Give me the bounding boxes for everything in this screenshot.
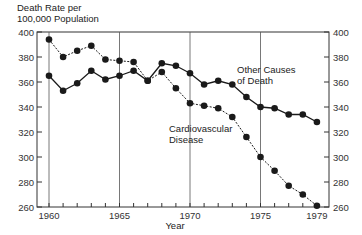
y-tick-label-left: 380: [18, 52, 34, 63]
y-tick-label-right: 380: [333, 52, 349, 63]
x-tick-label: 1965: [109, 210, 130, 221]
data-point-marker: [187, 100, 194, 107]
data-point-marker: [285, 182, 292, 189]
data-point-marker: [314, 202, 321, 209]
plot-border: [37, 32, 329, 207]
data-point-marker: [243, 94, 250, 101]
data-point-marker: [74, 80, 81, 87]
y-tick-label-right: 280: [333, 177, 349, 188]
line-chart: 260280300320340360380400 260280300320340…: [0, 0, 362, 235]
data-point-marker: [173, 85, 180, 92]
data-point-marker: [144, 77, 151, 84]
y-tick-label-right: 260: [333, 202, 349, 213]
data-point-marker: [271, 167, 278, 174]
data-point-marker: [173, 62, 180, 69]
y-tick-label-left: 340: [18, 102, 34, 113]
y-tick-label-left: 400: [18, 27, 34, 38]
data-point-marker: [130, 59, 137, 66]
data-point-marker: [116, 57, 123, 64]
data-point-marker: [159, 60, 166, 67]
y-tick-label-right: 360: [333, 77, 349, 88]
x-tick-label: 1975: [250, 210, 271, 221]
plot-frame: [37, 32, 329, 207]
data-point-marker: [229, 114, 236, 121]
other-causes-label-line-2: of Death: [237, 75, 273, 86]
y-tick-label-right: 400: [333, 27, 349, 38]
data-point-marker: [201, 102, 208, 109]
y-tick-label-right: 300: [333, 152, 349, 163]
data-point-marker: [102, 56, 109, 63]
x-axis: 19601965197019751979: [38, 203, 327, 221]
data-point-marker: [229, 81, 236, 88]
data-point-marker: [60, 87, 67, 94]
y-tick-label-right: 320: [333, 127, 349, 138]
y-tick-label-right: 340: [333, 102, 349, 113]
y-axis-right: 260280300320340360380400: [324, 27, 349, 213]
data-point-marker: [285, 111, 292, 118]
data-point-marker: [257, 104, 264, 111]
data-point-marker: [88, 67, 95, 74]
y-axis-left: 260280300320340360380400: [18, 27, 42, 213]
data-point-marker: [215, 77, 222, 84]
data-point-marker: [46, 72, 53, 79]
y-tick-label-left: 320: [18, 127, 34, 138]
data-point-marker: [159, 69, 166, 76]
data-point-marker: [243, 134, 250, 141]
data-point-marker: [314, 119, 321, 126]
data-point-marker: [257, 154, 264, 161]
x-axis-title: Year: [165, 220, 184, 231]
y-tick-label-left: 280: [18, 177, 34, 188]
vertical-gridlines: [49, 32, 261, 207]
data-point-marker: [102, 76, 109, 83]
data-point-marker: [130, 67, 137, 74]
y-tick-label-left: 260: [18, 202, 34, 213]
y-tick-label-left: 300: [18, 152, 34, 163]
data-point-marker: [271, 105, 278, 112]
other-causes-label-line-1: Other Causes: [237, 64, 296, 75]
cardiovascular-label-line-1: Cardiovascular: [169, 123, 232, 134]
y-tick-label-left: 360: [18, 77, 34, 88]
x-tick-label: 1960: [38, 210, 59, 221]
data-point-marker: [215, 105, 222, 112]
x-tick-label: 1979: [306, 210, 327, 221]
data-point-marker: [60, 54, 67, 61]
data-point-marker: [116, 72, 123, 79]
data-point-marker: [187, 70, 194, 77]
data-point-marker: [201, 81, 208, 88]
data-point-marker: [88, 42, 95, 49]
data-point-marker: [300, 111, 307, 118]
data-point-marker: [74, 47, 81, 54]
cardiovascular-label-line-2: Disease: [169, 134, 203, 145]
data-point-marker: [300, 191, 307, 198]
data-point-marker: [46, 36, 53, 43]
